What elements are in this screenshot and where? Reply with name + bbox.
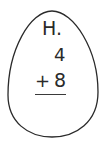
plus-operator: + <box>35 72 50 90</box>
sum-line <box>35 94 66 95</box>
bottom-addend: 8 <box>54 71 66 90</box>
top-addend: 4 <box>54 46 65 64</box>
problem-label: H. <box>42 19 62 38</box>
